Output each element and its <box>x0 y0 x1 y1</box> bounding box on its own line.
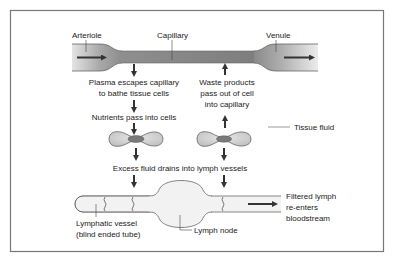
label-waste-2: pass out of cell <box>200 89 254 98</box>
cell-nucleus-right <box>217 136 232 142</box>
label-nutrients: Nutrients pass into cells <box>92 113 176 122</box>
label-waste-3: into capillary <box>205 100 249 109</box>
label-plasma-2: to bathe tissue cells <box>99 89 169 98</box>
label-plasma-1: Plasma escapes capillary <box>89 78 179 87</box>
diagram-canvas: Arteriole Capillary Venule Plasma escape… <box>0 0 394 262</box>
label-lymphatic-2: (blind ended tube) <box>76 230 141 239</box>
label-capillary: Capillary <box>157 31 188 40</box>
label-venule: Venule <box>266 31 291 40</box>
label-waste-1: Waste products <box>199 78 254 87</box>
label-lymph-node: Lymph node <box>194 226 238 235</box>
cell-nucleus-left <box>128 136 144 143</box>
label-excess-fluid: Excess fluid drains into lymph vessels <box>113 164 247 173</box>
capillary <box>121 51 255 63</box>
label-tissue-fluid: Tissue fluid <box>294 123 334 132</box>
label-filtered-2: re-enters <box>286 203 318 212</box>
label-arteriole: Arteriole <box>72 31 102 40</box>
label-filtered-1: Filtered lymph <box>286 192 336 201</box>
label-filtered-3: bloodstream <box>286 214 330 223</box>
label-lymphatic-1: Lymphatic vessel <box>76 219 137 228</box>
